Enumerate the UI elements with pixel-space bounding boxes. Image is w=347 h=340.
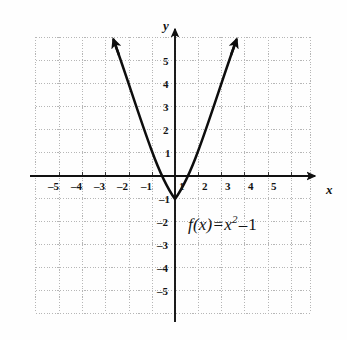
equation-lhs: f(x) [188,215,212,234]
y-tick-label-3: 3 [163,102,169,113]
x-tick-label-neg5: –5 [48,181,59,192]
y-tick-label-neg4: –4 [157,263,168,274]
y-tick-label-2: 2 [163,125,169,136]
y-tick-label-neg1: –1 [159,194,170,205]
y-tick-label-neg5: –5 [157,286,168,297]
function-equation-annotation: f(x)=x2–1 [188,213,257,235]
x-tick-label-5: 5 [271,181,277,192]
equation-equals: = [212,215,224,234]
equation-constant: 1 [248,215,257,234]
equation-exponent: 2 [232,213,238,225]
x-tick-label-3: 3 [225,181,231,192]
coordinate-plane [0,0,347,340]
y-tick-label-5: 5 [163,56,169,67]
curve-right-arrow [231,39,237,55]
y-tick-label-neg2: –2 [157,217,168,228]
x-tick-label-neg1: –1 [141,181,152,192]
equation-minus: – [238,215,249,234]
graph-figure: –5 –4 –3 –2 –1 1 2 3 4 5 5 4 3 2 1 –1 –2… [0,0,347,340]
equation-base: x [224,215,232,234]
x-tick-label-2: 2 [202,181,208,192]
y-axis-label: y [163,19,169,32]
y-tick-label-neg3: –3 [157,240,168,251]
x-tick-label-neg4: –4 [71,181,82,192]
y-tick-label-1: 1 [165,148,171,159]
x-tick-label-1: 1 [179,181,185,192]
y-tick-label-4: 4 [163,79,169,90]
x-tick-label-neg2: –2 [117,181,128,192]
curve-left-arrow [113,39,119,55]
x-tick-label-neg3: –3 [94,181,105,192]
x-tick-label-4: 4 [248,181,254,192]
x-axis-label: x [326,183,333,196]
